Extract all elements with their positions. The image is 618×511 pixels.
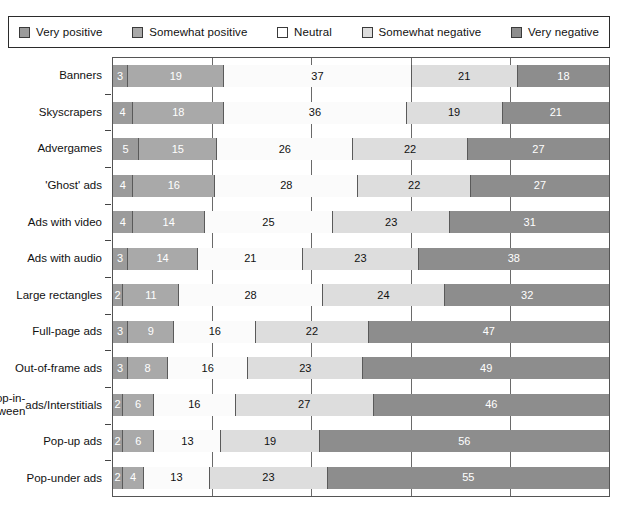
bar-segment[interactable]: 19 xyxy=(407,102,503,124)
bar-segment[interactable]: 38 xyxy=(419,248,609,270)
category-label: Ads with audio xyxy=(0,248,104,270)
bar-segment[interactable]: 25 xyxy=(205,211,333,233)
bar-segment[interactable]: 14 xyxy=(133,211,205,233)
bar-segment[interactable]: 23 xyxy=(248,357,363,379)
bar-segment[interactable]: 15 xyxy=(139,138,217,160)
bar-segment-value: 38 xyxy=(508,253,520,264)
bar-segment[interactable]: 49 xyxy=(363,357,608,379)
square-swatch-icon xyxy=(362,27,373,38)
bar-segment[interactable]: 55 xyxy=(328,467,609,489)
bar-segment[interactable]: 24 xyxy=(323,284,446,306)
axis-tick xyxy=(105,94,111,95)
bar-segment[interactable]: 26 xyxy=(217,138,353,160)
bar-segment[interactable]: 16 xyxy=(154,394,236,416)
bar-segment[interactable]: 22 xyxy=(256,321,368,343)
bar-row[interactable]: 26131956 xyxy=(113,430,609,452)
bar-segment[interactable]: 23 xyxy=(303,248,418,270)
bar-segment-value: 23 xyxy=(262,472,274,483)
bar-segment-value: 37 xyxy=(311,71,323,82)
bar-row[interactable]: 38162349 xyxy=(113,357,609,379)
bar-segment[interactable]: 8 xyxy=(128,357,168,379)
bar-row[interactable]: 314212338 xyxy=(113,248,609,270)
legend-item-somewhat-positive[interactable]: Somewhat positive xyxy=(132,26,247,38)
bar-segment[interactable]: 3 xyxy=(113,357,128,379)
bar-row[interactable]: 39162247 xyxy=(113,321,609,343)
bar-segment[interactable]: 47 xyxy=(369,321,609,343)
bar-segment[interactable]: 2 xyxy=(113,467,123,489)
bar-segment-value: 23 xyxy=(299,363,311,374)
bar-segment[interactable]: 16 xyxy=(168,357,248,379)
bar-segment[interactable]: 6 xyxy=(123,394,154,416)
bar-segment-value: 22 xyxy=(306,326,318,337)
bar-row[interactable]: 515262227 xyxy=(113,138,609,160)
bar-segment[interactable]: 31 xyxy=(450,211,609,233)
bar-segment[interactable]: 21 xyxy=(412,65,518,87)
bar-segment-value: 21 xyxy=(550,107,562,118)
bar-segment[interactable]: 5 xyxy=(113,138,139,160)
bar-segment[interactable]: 21 xyxy=(503,102,609,124)
bar-segment[interactable]: 3 xyxy=(113,65,128,87)
bar-segment-value: 18 xyxy=(172,107,184,118)
bar-segment[interactable]: 46 xyxy=(374,394,609,416)
bar-segment[interactable]: 28 xyxy=(215,175,358,197)
bar-segment[interactable]: 27 xyxy=(236,394,374,416)
bar-segment[interactable]: 2 xyxy=(113,430,123,452)
bar-segment[interactable]: 16 xyxy=(174,321,256,343)
bar-segment[interactable]: 27 xyxy=(468,138,609,160)
bar-segment[interactable]: 16 xyxy=(133,175,215,197)
bar-segment[interactable]: 23 xyxy=(333,211,451,233)
bar-row[interactable]: 319372118 xyxy=(113,65,609,87)
category-label: Skyscrapers xyxy=(0,101,104,123)
bar-row[interactable]: 414252331 xyxy=(113,211,609,233)
bar-segment-value: 2 xyxy=(115,436,121,447)
bar-segment[interactable]: 36 xyxy=(224,102,406,124)
bar-segment[interactable]: 22 xyxy=(353,138,468,160)
legend-item-somewhat-negative[interactable]: Somewhat negative xyxy=(362,26,482,38)
bar-segment[interactable]: 56 xyxy=(320,430,609,452)
bar-segment[interactable]: 13 xyxy=(154,430,221,452)
bar-row[interactable]: 211282432 xyxy=(113,284,609,306)
bar-segment[interactable]: 14 xyxy=(128,248,198,270)
bar-segment[interactable]: 28 xyxy=(179,284,322,306)
bar-segment[interactable]: 21 xyxy=(198,248,303,270)
bar-segment[interactable]: 37 xyxy=(224,65,411,87)
bar-segment-value: 26 xyxy=(279,144,291,155)
bar-segment[interactable]: 3 xyxy=(113,248,128,270)
bar-segment[interactable]: 6 xyxy=(123,430,154,452)
bar-segment-value: 28 xyxy=(280,180,292,191)
bar-segment[interactable]: 19 xyxy=(221,430,319,452)
bar-segment-value: 22 xyxy=(404,144,416,155)
bar-segment[interactable]: 3 xyxy=(113,321,128,343)
bar-segment[interactable]: 11 xyxy=(123,284,179,306)
bar-segment[interactable]: 18 xyxy=(133,102,224,124)
bar-segment[interactable]: 23 xyxy=(210,467,328,489)
bar-row[interactable]: 24132355 xyxy=(113,467,609,489)
bar-segment[interactable]: 4 xyxy=(113,211,133,233)
bar-segment[interactable]: 32 xyxy=(445,284,609,306)
bar-segment[interactable]: 4 xyxy=(123,467,143,489)
bar-segment[interactable]: 19 xyxy=(128,65,224,87)
bar-segment[interactable]: 13 xyxy=(144,467,210,489)
bar-segment[interactable]: 4 xyxy=(113,102,133,124)
bar-row[interactable]: 418361921 xyxy=(113,102,609,124)
category-label-line: Pop-in-between xyxy=(0,392,25,418)
bar-segment-value: 6 xyxy=(135,399,141,410)
bar-segment[interactable]: 18 xyxy=(518,65,609,87)
bar-segment[interactable]: 27 xyxy=(471,175,609,197)
bar-segment[interactable]: 2 xyxy=(113,394,123,416)
legend-item-neutral[interactable]: Neutral xyxy=(277,26,332,38)
bar-segment-value: 2 xyxy=(115,472,121,483)
bar-segment[interactable]: 4 xyxy=(113,175,133,197)
legend-item-very-negative[interactable]: Very negative xyxy=(511,26,599,38)
bar-segment[interactable]: 9 xyxy=(128,321,174,343)
bar-segment[interactable]: 2 xyxy=(113,284,123,306)
bar-row[interactable]: 26162746 xyxy=(113,394,609,416)
bar-segment-value: 14 xyxy=(156,253,168,264)
bar-row[interactable]: 416282227 xyxy=(113,175,609,197)
bar-segment-value: 4 xyxy=(120,180,126,191)
legend-item-very-positive[interactable]: Very positive xyxy=(19,26,103,38)
bar-segment-value: 22 xyxy=(408,180,420,191)
bar-segment[interactable]: 22 xyxy=(358,175,470,197)
category-label: Ads with video xyxy=(0,211,104,233)
bar-segment-value: 6 xyxy=(135,436,141,447)
